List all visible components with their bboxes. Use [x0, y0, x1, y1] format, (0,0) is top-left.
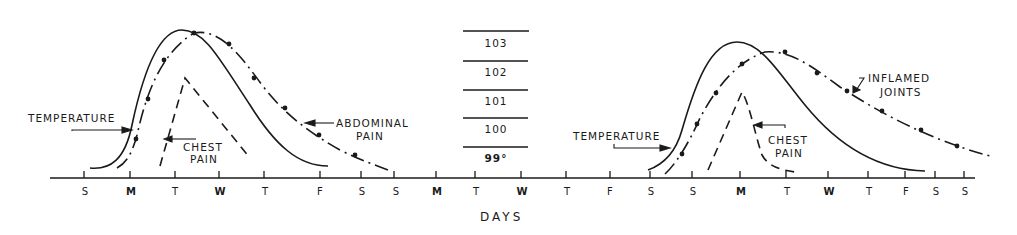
right-temperature-label: TEMPERATURE	[573, 130, 660, 142]
left-temperature-label: TEMPERATURE	[28, 112, 115, 124]
axis-ticks	[84, 171, 964, 178]
tick-label: M	[736, 186, 746, 197]
right-chest-pain-label-line2: PAIN	[775, 147, 803, 159]
scale-label-100: 100	[463, 123, 529, 135]
left-abdominal-pain-label-line2: PAIN	[356, 130, 384, 142]
tick-label: W	[516, 186, 527, 197]
x-axis-title: DAYS	[480, 210, 523, 224]
tick-label: T	[866, 186, 872, 197]
scale-label-99: 99°	[463, 152, 529, 164]
tick-label: S	[82, 186, 88, 197]
tick-label: M	[126, 186, 136, 197]
tick-label: S	[690, 186, 696, 197]
right-inflamed-joints-label-line1: INFLAMED	[868, 72, 930, 84]
tick-label: T	[473, 186, 479, 197]
tick-label: F	[317, 186, 323, 197]
tick-label: S	[359, 186, 365, 197]
tick-label: W	[823, 186, 834, 197]
tick-label: M	[432, 186, 442, 197]
tick-label: S	[648, 186, 654, 197]
tick-label: S	[393, 186, 399, 197]
tick-label: S	[933, 186, 939, 197]
tick-label: W	[214, 186, 225, 197]
left-abdominal-pain-label-line1: ABDOMINAL	[336, 117, 409, 129]
scale-label-102: 102	[463, 66, 529, 78]
tick-label: T	[172, 186, 178, 197]
tick-label: T	[262, 186, 268, 197]
tick-label: F	[903, 186, 909, 197]
tick-label: T	[784, 186, 790, 197]
left-abdominal-pain-curve	[117, 32, 388, 170]
scale-label-101: 101	[463, 95, 529, 107]
right-chest-pain-label-line1: CHEST	[768, 134, 808, 146]
tick-label: S	[962, 186, 968, 197]
right-chest-pain-curve	[708, 92, 795, 172]
tick-label: T	[564, 186, 570, 197]
left-chest-pain-label-line2: PAIN	[190, 153, 218, 165]
left-chest-pain-label-line1: CHEST	[183, 141, 223, 153]
tick-label: F	[607, 186, 613, 197]
right-inflamed-joints-label-line2: JOINTS	[880, 86, 921, 98]
clinical-course-diagram	[0, 0, 1017, 235]
scale-label-103: 103	[463, 37, 529, 49]
